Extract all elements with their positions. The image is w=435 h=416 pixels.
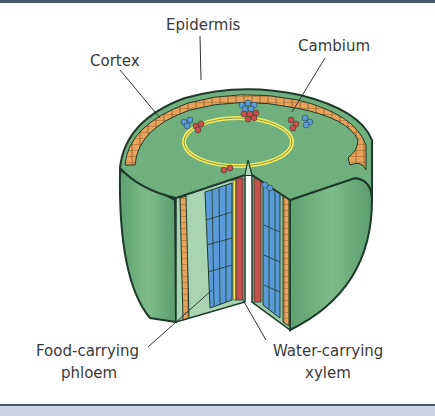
label-cambium: Cambium xyxy=(298,37,370,55)
label-epidermis: Epidermis xyxy=(166,16,241,34)
stem-diagram: Epidermis Cortex Cambium Food-carrying p… xyxy=(0,0,435,416)
label-xylem-line2: xylem xyxy=(305,364,351,382)
stem-body-right xyxy=(252,175,372,330)
label-phloem-line2: phloem xyxy=(61,364,117,382)
label-phloem-line1: Food-carrying xyxy=(36,342,139,360)
diagram-frame: Epidermis Cortex Cambium Food-carrying p… xyxy=(0,0,435,416)
bottom-border xyxy=(0,404,435,416)
label-xylem-line1: Water-carrying xyxy=(273,342,383,360)
label-cortex: Cortex xyxy=(90,52,140,70)
stem-top-surface xyxy=(120,89,372,200)
